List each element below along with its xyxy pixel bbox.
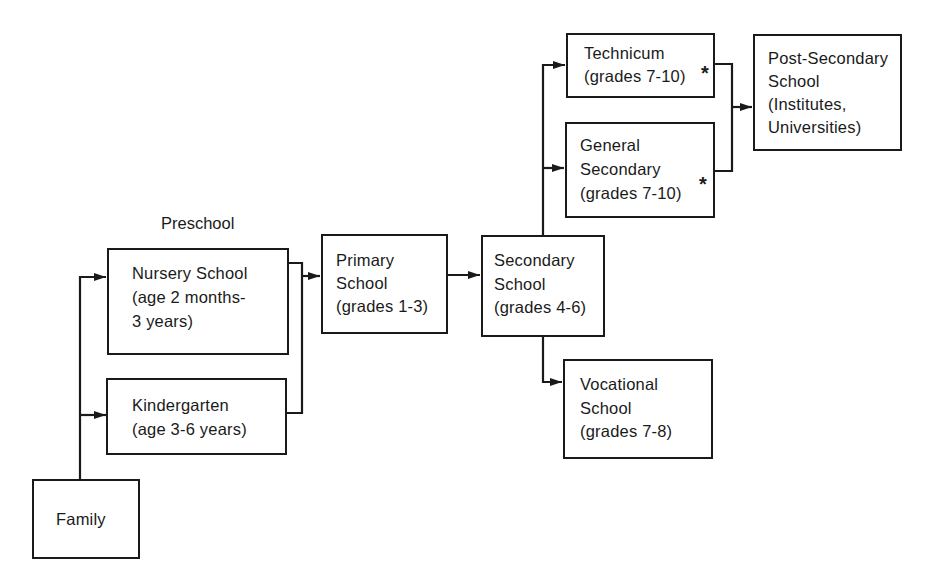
preschool-label: Preschool — [161, 214, 234, 233]
footnote-asterisk: * — [701, 63, 709, 83]
node-technicum: Technicum (grades 7-10) * — [566, 33, 715, 98]
node-post-secondary-school: Post-Secondary School (Institutes, Unive… — [753, 34, 902, 151]
node-secondary-line-2: School — [494, 273, 546, 295]
edge-family-nursery — [80, 277, 106, 479]
node-primary-school: Primary School (grades 1-3) — [321, 234, 448, 334]
node-post-secondary-line-4: Universities) — [768, 116, 861, 138]
edge-secondary-technicum — [543, 65, 565, 235]
node-secondary-line-3: (grades 4-6) — [494, 296, 586, 318]
node-kindergarten-line-2: (age 3-6 years) — [132, 418, 247, 440]
node-general-line-3: (grades 7-10) — [580, 182, 682, 204]
edge-secondary-vocational — [543, 336, 562, 382]
node-post-secondary-line-1: Post-Secondary — [768, 47, 888, 69]
node-nursery-line-1: Nursery School — [132, 262, 248, 284]
node-post-secondary-line-3: (Institutes, — [768, 93, 847, 115]
node-general-secondary: General Secondary (grades 7-10) * — [565, 122, 715, 218]
node-primary-line-1: Primary — [336, 249, 394, 271]
node-nursery-line-3: 3 years) — [132, 310, 193, 332]
node-family-line-1: Family — [56, 508, 106, 530]
edge-technicum-general-merge — [714, 64, 732, 171]
node-post-secondary-line-2: School — [768, 70, 820, 92]
node-secondary-line-1: Secondary — [494, 249, 575, 271]
node-general-line-2: Secondary — [580, 158, 661, 180]
node-vocational-line-1: Vocational — [580, 373, 658, 395]
footnote-asterisk: * — [699, 174, 707, 194]
node-kindergarten: Kindergarten (age 3-6 years) — [106, 378, 287, 455]
node-kindergarten-line-1: Kindergarten — [132, 394, 229, 416]
node-general-line-1: General — [580, 134, 640, 156]
node-technicum-line-1: Technicum — [584, 42, 665, 64]
node-vocational-line-2: School — [580, 397, 632, 419]
node-primary-line-3: (grades 1-3) — [336, 295, 428, 317]
node-nursery-school: Nursery School (age 2 months- 3 years) — [107, 248, 289, 355]
node-vocational-line-3: (grades 7-8) — [580, 420, 672, 442]
node-vocational-school: Vocational School (grades 7-8) — [563, 359, 713, 459]
node-technicum-line-2: (grades 7-10) — [584, 65, 686, 87]
node-nursery-line-2: (age 2 months- — [132, 286, 246, 308]
node-secondary-school: Secondary School (grades 4-6) — [481, 235, 605, 337]
node-family: Family — [32, 479, 140, 559]
node-primary-line-2: School — [336, 272, 388, 294]
